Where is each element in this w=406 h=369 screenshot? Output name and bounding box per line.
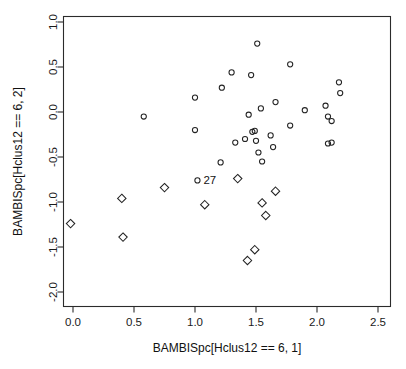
data-point-circle xyxy=(270,145,275,150)
y-axis-title: BAMBISpc[Hclus12 == 6, 2] xyxy=(11,87,25,236)
data-point-circle xyxy=(338,91,343,96)
y-tick-label: -2.0 xyxy=(47,282,59,302)
data-point-circle xyxy=(253,138,258,143)
data-point-circle xyxy=(218,160,223,165)
data-point-circle xyxy=(329,140,334,145)
data-point-circle xyxy=(141,114,146,119)
x-axis-tick-labels: 0.00.51.01.52.02.5 xyxy=(65,316,386,328)
data-point-circle xyxy=(246,112,251,117)
data-point-circle xyxy=(302,108,307,113)
data-point-circle xyxy=(233,140,238,145)
plot-panel-border xyxy=(64,17,391,307)
data-point-diamond xyxy=(234,174,242,182)
x-tick-label: 2.0 xyxy=(309,316,325,328)
data-point-circle xyxy=(255,41,260,46)
x-tick-label: 2.5 xyxy=(370,316,386,328)
data-point-circle xyxy=(192,127,197,132)
data-point-diamond xyxy=(258,199,266,207)
y-tick-label: -1.0 xyxy=(47,192,59,212)
data-point-circle xyxy=(260,159,265,164)
data-point-markers xyxy=(66,41,342,265)
y-tick-label: 0.5 xyxy=(47,59,59,75)
y-axis-tick-labels: 1.00.50.0-0.5-1.0-1.5-2.0 xyxy=(47,14,59,302)
data-point-circle xyxy=(229,70,234,75)
data-point-diamond xyxy=(119,233,127,241)
x-axis-title: BAMBISpc[Hclus12 == 6, 1] xyxy=(153,341,302,355)
data-point-diamond xyxy=(118,194,126,202)
x-tick-label: 0.5 xyxy=(126,316,142,328)
data-point-circle xyxy=(195,178,200,183)
data-point-diamond xyxy=(262,211,270,219)
y-tick-label: -1.5 xyxy=(47,237,59,257)
y-tick-label: -0.5 xyxy=(47,147,59,167)
x-tick-label: 1.5 xyxy=(248,316,264,328)
y-tick-label: 1.0 xyxy=(47,14,59,30)
data-point-circle xyxy=(325,114,330,119)
plot-border xyxy=(64,17,391,307)
data-point-circle xyxy=(336,80,341,85)
data-point-circle xyxy=(323,103,328,108)
data-point-circle xyxy=(192,95,197,100)
data-point-diamond xyxy=(251,246,259,254)
plot-canvas: 0.00.51.01.52.02.5 1.00.50.0-0.5-1.0-1.5… xyxy=(0,0,406,369)
scatter-plot-figure: 0.00.51.01.52.02.5 1.00.50.0-0.5-1.0-1.5… xyxy=(0,0,406,369)
data-point-label: 27 xyxy=(203,174,216,186)
data-point-circle xyxy=(273,100,278,105)
x-tick-label: 0.0 xyxy=(65,316,81,328)
data-point-circle xyxy=(256,150,261,155)
data-point-circle xyxy=(329,118,334,123)
data-point-diamond xyxy=(201,201,209,209)
data-point-diamond xyxy=(271,187,279,195)
x-tick-label: 1.0 xyxy=(187,316,203,328)
data-point-labels: 27 xyxy=(203,174,216,186)
data-point-circle xyxy=(288,123,293,128)
data-point-circle xyxy=(249,73,254,78)
data-point-circle xyxy=(288,62,293,67)
data-point-diamond xyxy=(160,183,168,191)
data-point-circle xyxy=(325,141,330,146)
data-point-circle xyxy=(219,85,224,90)
data-point-circle xyxy=(242,136,247,141)
data-point-circle xyxy=(268,133,273,138)
data-point-diamond xyxy=(243,256,251,264)
data-point-diamond xyxy=(66,219,74,227)
data-point-circle xyxy=(258,106,263,111)
x-axis-ticks xyxy=(73,307,378,313)
y-tick-label: 0.0 xyxy=(47,104,59,120)
